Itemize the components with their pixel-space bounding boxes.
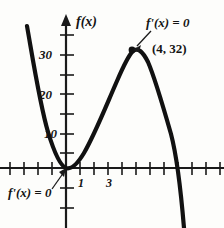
- y-tick-label-20: 20: [39, 88, 52, 101]
- origin-annotation-arrow-icon: [52, 168, 66, 189]
- function-graph-figure: f(x) 30 20 10 1 3 f'(x) = 0 (4, 32) f'(x…: [0, 0, 224, 228]
- x-tick-label-1: 1: [78, 177, 84, 189]
- annotation-peak-coordinates: (4, 32): [152, 42, 187, 55]
- y-tick-label-10: 10: [44, 127, 57, 140]
- y-axis-label: f(x): [76, 15, 97, 29]
- y-axis-arrow-icon: [61, 14, 71, 26]
- x-tick-label-3: 3: [106, 177, 112, 189]
- y-tick-label-30: 30: [39, 48, 52, 61]
- annotation-derivative-zero-origin: f'(x) = 0: [8, 186, 52, 199]
- annotation-derivative-zero-peak: f'(x) = 0: [146, 16, 190, 29]
- peak-annotation-arrow-icon: [133, 31, 151, 52]
